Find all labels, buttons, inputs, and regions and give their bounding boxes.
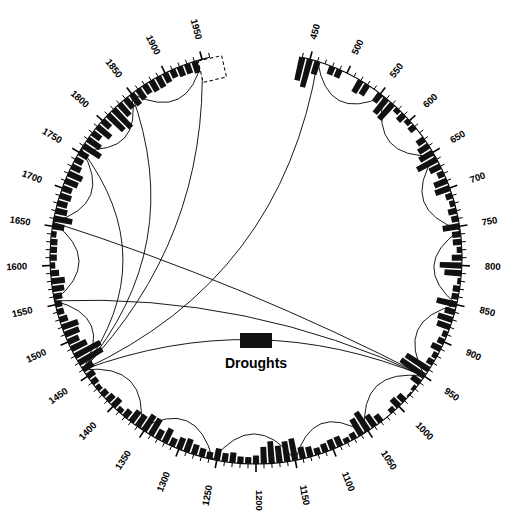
year-label-550: 550 bbox=[387, 61, 405, 80]
year-label-950: 950 bbox=[442, 385, 461, 403]
year-label-1950: 1950 bbox=[189, 18, 205, 41]
year-label-1350: 1350 bbox=[113, 448, 134, 471]
circular-drought-chart: 4505005506006507007508008509009501000105… bbox=[0, 0, 506, 518]
year-label-1550: 1550 bbox=[11, 304, 34, 319]
year-label-600: 600 bbox=[421, 91, 440, 110]
tick-group bbox=[42, 51, 470, 472]
year-label-1650: 1650 bbox=[9, 214, 31, 228]
year-label-1300: 1300 bbox=[154, 470, 172, 493]
year-label-1400: 1400 bbox=[76, 420, 98, 443]
drought-bar-group bbox=[50, 57, 462, 464]
year-label-1500: 1500 bbox=[24, 346, 47, 365]
year-label-450: 450 bbox=[307, 23, 322, 41]
year-label-900: 900 bbox=[464, 346, 483, 362]
year-label-group: 4505005506006507007508008509009501000105… bbox=[6, 18, 501, 511]
figure-canvas: 4505005506006507007508008509009501000105… bbox=[0, 0, 506, 518]
year-label-1800: 1800 bbox=[69, 88, 92, 110]
year-label-1100: 1100 bbox=[340, 470, 358, 493]
year-label-650: 650 bbox=[448, 128, 467, 145]
year-label-1250: 1250 bbox=[200, 484, 215, 506]
year-label-1150: 1150 bbox=[298, 484, 313, 506]
year-label-750: 750 bbox=[481, 214, 498, 227]
year-label-1450: 1450 bbox=[46, 385, 69, 406]
year-label-800: 800 bbox=[485, 260, 501, 272]
year-label-1850: 1850 bbox=[104, 57, 125, 80]
legend-label: Droughts bbox=[225, 355, 287, 371]
year-label-500: 500 bbox=[349, 38, 366, 57]
drought-swatch bbox=[240, 333, 272, 348]
year-label-1200: 1200 bbox=[254, 490, 265, 511]
year-label-1750: 1750 bbox=[41, 125, 64, 145]
year-label-1900: 1900 bbox=[144, 33, 163, 56]
year-label-1700: 1700 bbox=[20, 168, 43, 185]
legend: Droughts bbox=[225, 333, 287, 371]
year-label-700: 700 bbox=[468, 169, 486, 185]
year-label-850: 850 bbox=[479, 304, 497, 318]
year-label-1050: 1050 bbox=[379, 448, 400, 471]
year-label-1600: 1600 bbox=[6, 260, 27, 272]
year-label-1000: 1000 bbox=[413, 420, 435, 443]
